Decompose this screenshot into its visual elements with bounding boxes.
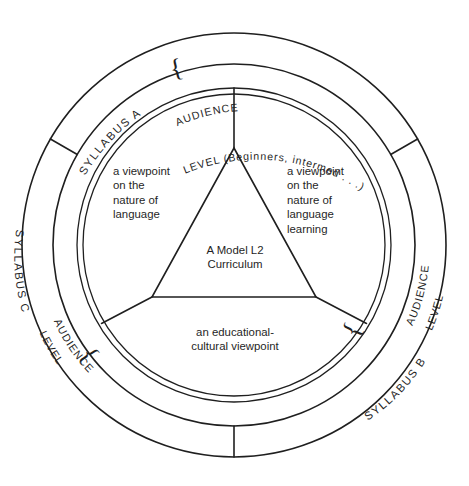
educational-cultural-viewpoint-label: an educational- cultural viewpoint <box>152 325 318 354</box>
model-curriculum-center-label: A Model L2 Curriculum <box>175 243 295 272</box>
syllabus-a-brace: { <box>167 53 186 84</box>
syllabus-a-audience: AUDIENCE <box>173 101 239 128</box>
language-learning-viewpoint-label: a viewpoint on the nature of language le… <box>287 164 344 236</box>
syllabus-c-label: SYLLABUS C <box>12 229 32 315</box>
syllabus-b-label: SYLLABUS B <box>362 355 428 423</box>
syllabus-c-label-text: SYLLABUS C <box>12 229 32 315</box>
language-viewpoint-label: a viewpoint on the nature of language <box>113 164 170 222</box>
syllabus-b-label-text: SYLLABUS B <box>362 355 428 423</box>
syllabus-b-level-text: LEVEL <box>422 293 445 332</box>
syllabus-a-audience-text: AUDIENCE <box>173 101 239 128</box>
syllabus-b-level: LEVEL <box>422 293 445 332</box>
curriculum-model-diagram: SYLLABUS A AUDIENCE LEVEL (Beginners, in… <box>0 0 469 486</box>
spoke-lower-left <box>102 297 153 324</box>
ring-divider-top-left <box>50 139 77 155</box>
ring-divider-top-right <box>391 139 418 155</box>
